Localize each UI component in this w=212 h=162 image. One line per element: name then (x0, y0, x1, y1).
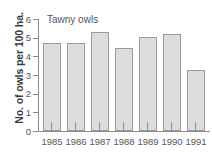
x-axis-line (34, 131, 210, 132)
bar-base-tick-1985 (51, 122, 52, 131)
bar-1985 (43, 43, 61, 131)
x-label-1987: 1987 (87, 136, 113, 147)
x-label-1989: 1989 (135, 136, 161, 147)
y-tick-label-6: 6 (20, 15, 31, 24)
y-tick-label-2: 2 (20, 89, 31, 98)
bar-1986 (67, 43, 85, 131)
bar-1991 (187, 70, 205, 131)
x-label-1990: 1990 (159, 136, 185, 147)
y-tick-label-1: 1 (20, 108, 31, 117)
bar-1990 (163, 34, 181, 131)
bar-base-tick-1986 (75, 122, 76, 131)
bar-base-tick-1990 (171, 122, 172, 131)
bar-base-tick-1987 (99, 122, 100, 131)
bar-1988 (115, 48, 133, 131)
bar-base-tick-1988 (123, 122, 124, 131)
chart-container: No. of owls per 100 ha. 0123456 Tawny ow… (0, 0, 212, 162)
y-tick-label-4: 4 (20, 52, 31, 61)
x-label-1988: 1988 (111, 136, 137, 147)
x-label-1985: 1985 (39, 136, 65, 147)
y-tick-label-3: 3 (20, 71, 31, 80)
bar-base-tick-1991 (195, 122, 196, 131)
bar-1989 (139, 37, 157, 131)
x-label-1991: 1991 (183, 136, 209, 147)
x-label-1986: 1986 (63, 136, 89, 147)
bar-series (38, 19, 208, 131)
bar-base-tick-1989 (147, 122, 148, 131)
y-tick-label-5: 5 (20, 33, 31, 42)
y-tick-label-0: 0 (20, 127, 31, 136)
bar-1987 (91, 32, 109, 131)
y-tick-0 (33, 131, 38, 132)
